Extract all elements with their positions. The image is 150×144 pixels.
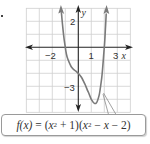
y-tick-label-2: 2	[70, 16, 75, 27]
x-tick-label-1: 1	[89, 50, 94, 61]
function-name: f(x)	[16, 119, 32, 131]
x-axis-label: x	[121, 50, 127, 61]
factor1-rest: + 1)	[57, 119, 79, 131]
factor2-minus: −	[91, 119, 103, 131]
equals-sign: =	[32, 119, 44, 131]
factor2-rest: − 2)	[109, 119, 131, 131]
callout-pointer	[103, 93, 116, 115]
y-tick-label-neg3: −3	[64, 82, 75, 93]
y-axis-label: y	[81, 7, 87, 18]
function-label-box: f(x) = (x2 + 1) (x2 − x − 2)	[1, 114, 146, 136]
factor1-var: x	[48, 119, 53, 131]
x-tick-label-neg2: −2	[45, 50, 56, 61]
x-tick-label-3: 3	[113, 50, 118, 61]
